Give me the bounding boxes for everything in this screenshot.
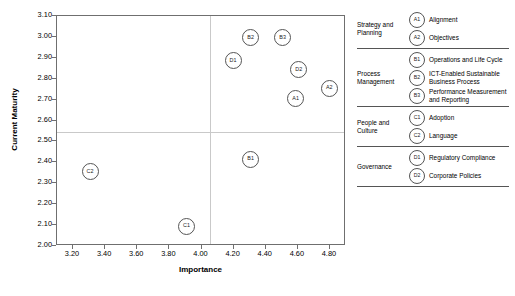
data-point-b2[interactable]: B2 (242, 29, 259, 46)
x-tick-mark (72, 245, 73, 249)
x-tick-mark (297, 245, 298, 249)
y-tick-label: 2.30 (0, 179, 52, 186)
y-tick-label: 3.10 (0, 11, 52, 18)
data-point-c1[interactable]: C1 (178, 218, 195, 235)
x-tick-mark (168, 245, 169, 249)
y-tick-label: 2.20 (0, 199, 52, 206)
legend-item-label: Corporate Policies (429, 172, 481, 180)
y-tick-label: 2.90 (0, 53, 52, 60)
legend-item-label: Performance Measurement and Reporting (429, 88, 509, 104)
legend-group-name: Process Management (357, 49, 409, 106)
legend-code-badge: D2 (409, 168, 425, 184)
y-tick-label: 3.00 (0, 32, 52, 39)
legend-code-badge: B3 (409, 88, 425, 104)
legend-item-list: B1Operations and Life CycleB2ICT-Enabled… (409, 49, 509, 106)
legend-item-list: D1Regulatory ComplianceD2Corporate Polic… (409, 147, 509, 186)
legend-item[interactable]: C1Adoption (409, 109, 509, 127)
y-tick-label: 2.60 (0, 116, 52, 123)
legend-item-label: Language (429, 132, 457, 140)
y-tick-label: 2.80 (0, 74, 52, 81)
legend-item-list: C1AdoptionC2Language (409, 107, 509, 146)
legend-item[interactable]: A1Alignment (409, 11, 509, 29)
legend-item[interactable]: D2Corporate Policies (409, 167, 509, 185)
data-point-d2[interactable]: D2 (290, 61, 307, 78)
data-point-a1[interactable]: A1 (287, 90, 304, 107)
legend-group: GovernanceD1Regulatory ComplianceD2Corpo… (357, 146, 509, 187)
y-tick-label: 2.10 (0, 220, 52, 227)
horizontal-reference-line (57, 132, 344, 133)
x-tick-mark (136, 245, 137, 249)
y-tick-mark (52, 245, 56, 246)
plot-area: A1A2B1B2B3C1C2D1D2 (56, 15, 345, 245)
legend-item-label: Adoption (429, 114, 454, 122)
vertical-reference-line (210, 16, 211, 244)
y-tick-label: 2.40 (0, 158, 52, 165)
legend-code-badge: D1 (409, 150, 425, 166)
x-tick-label: 4.80 (309, 250, 349, 257)
legend-item[interactable]: B3Performance Measurement and Reporting (409, 87, 509, 105)
x-tick-mark (233, 245, 234, 249)
legend-code-badge: C2 (409, 128, 425, 144)
legend-group-name: People and Culture (357, 107, 409, 146)
x-tick-mark (265, 245, 266, 249)
legend-item-label: ICT-Enabled Sustainable Business Process (429, 70, 509, 86)
legend-group-name: Governance (357, 147, 409, 186)
scatter-chart-figure: Current Maturity Importance 2.002.102.20… (0, 0, 515, 296)
legend-group: People and CultureC1AdoptionC2Language (357, 106, 509, 146)
legend-item[interactable]: C2Language (409, 127, 509, 145)
legend-code-badge: B1 (409, 52, 425, 68)
x-tick-mark (104, 245, 105, 249)
legend-code-badge: A2 (409, 30, 425, 46)
y-tick-label: 2.70 (0, 95, 52, 102)
legend-item[interactable]: D1Regulatory Compliance (409, 149, 509, 167)
x-axis-label: Importance (56, 265, 345, 274)
legend-item-list: A1AlignmentA2Objectives (409, 9, 509, 48)
y-tick-label: 2.00 (0, 241, 52, 248)
legend-item-label: Regulatory Compliance (429, 154, 495, 162)
x-tick-mark (329, 245, 330, 249)
data-point-a2[interactable]: A2 (321, 80, 338, 97)
legend-item-label: Objectives (429, 34, 459, 42)
legend-item[interactable]: B1Operations and Life Cycle (409, 51, 509, 69)
legend-group-name: Strategy and Planning (357, 9, 409, 48)
data-point-c2[interactable]: C2 (82, 163, 99, 180)
legend-group: Strategy and PlanningA1AlignmentA2Object… (357, 9, 509, 48)
legend-code-badge: A1 (409, 12, 425, 28)
legend-group: Process ManagementB1Operations and Life … (357, 48, 509, 106)
legend-item[interactable]: A2Objectives (409, 29, 509, 47)
data-point-b1[interactable]: B1 (242, 151, 259, 168)
legend-code-badge: C1 (409, 110, 425, 126)
legend-item[interactable]: B2ICT-Enabled Sustainable Business Proce… (409, 69, 509, 87)
legend-item-label: Alignment (429, 16, 457, 24)
y-tick-label: 2.50 (0, 137, 52, 144)
data-point-b3[interactable]: B3 (274, 29, 291, 46)
legend-code-badge: B2 (409, 70, 425, 86)
data-point-d1[interactable]: D1 (225, 52, 242, 69)
legend-item-label: Operations and Life Cycle (429, 56, 503, 64)
legend: Strategy and PlanningA1AlignmentA2Object… (357, 9, 509, 187)
x-tick-mark (201, 245, 202, 249)
